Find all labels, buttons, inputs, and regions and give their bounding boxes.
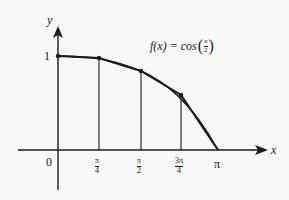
point-3pi-4 <box>179 93 183 97</box>
x-tick-numerator: π <box>95 157 99 165</box>
x-tick-numerator: π <box>137 157 141 165</box>
left-paren: ( <box>198 37 203 55</box>
point-pi-4 <box>97 56 101 60</box>
function-lhs: f(x) = cos <box>150 39 197 54</box>
x-tick-denominator: 4 <box>177 167 181 175</box>
origin-label: 0 <box>46 156 52 168</box>
right-paren: ) <box>209 37 214 55</box>
trapezoid-chords <box>58 56 218 150</box>
function-argument: x 2 <box>204 38 208 54</box>
x-tick-pi-4: π 4 <box>95 157 99 175</box>
x-tick-pi: π <box>214 158 220 170</box>
x-tick-numerator: 3π <box>175 157 183 165</box>
x-axis-label: x <box>271 144 276 156</box>
function-label: f(x) = cos ( x 2 ) <box>150 37 215 55</box>
x-tick-pi-2: π 2 <box>137 157 141 175</box>
point-0 <box>56 54 60 58</box>
argument-denominator: 2 <box>204 47 208 54</box>
diagram-canvas <box>0 0 289 200</box>
x-tick-3pi-4: 3π 4 <box>175 157 183 175</box>
x-tick-denominator: 4 <box>95 167 99 175</box>
x-tick-denominator: 2 <box>137 167 141 175</box>
point-pi-2 <box>139 69 143 73</box>
argument-numerator: x <box>204 38 207 45</box>
y-axis-label: y <box>47 14 52 26</box>
y-tick-1: 1 <box>44 50 50 62</box>
